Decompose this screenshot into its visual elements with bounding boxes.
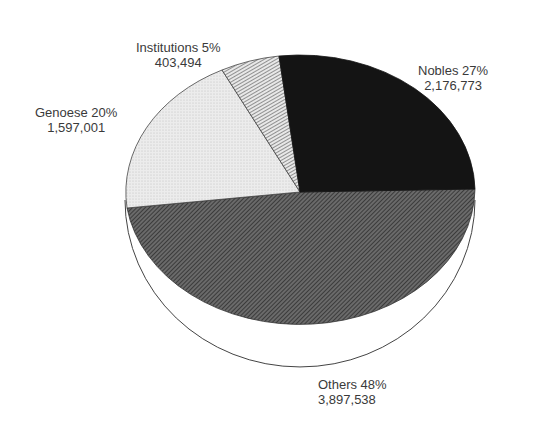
label-genoese-name: Genoese 20% [35, 105, 117, 120]
label-genoese: Genoese 20% 1,597,001 [35, 105, 117, 135]
label-nobles-value: 2,176,773 [418, 78, 488, 93]
label-genoese-value: 1,597,001 [35, 120, 117, 135]
label-nobles-name: Nobles 27% [418, 63, 488, 78]
label-institutions-name: Institutions 5% [136, 40, 221, 55]
label-others: Others 48% 3,897,538 [318, 377, 387, 407]
label-institutions-value: 403,494 [136, 55, 221, 70]
label-others-name: Others 48% [318, 377, 387, 392]
label-others-value: 3,897,538 [318, 392, 387, 407]
label-nobles: Nobles 27% 2,176,773 [418, 63, 488, 93]
label-institutions: Institutions 5% 403,494 [136, 40, 221, 70]
